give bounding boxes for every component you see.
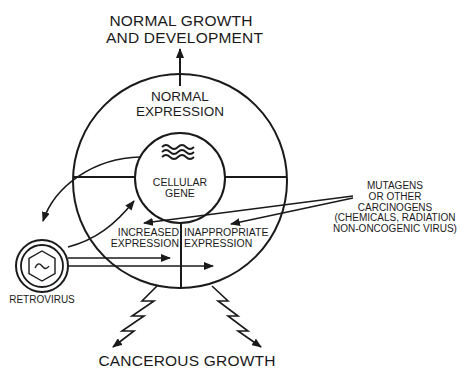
mutagens-label: MUTAGENS OR OTHER CARCINOGENS (CHEMICALS… xyxy=(325,181,465,235)
hexagon-virus-icon xyxy=(16,240,68,292)
mutagens-line5: NON-ONCOGENIC VIRUS) xyxy=(325,224,465,235)
normal-growth-label: NORMAL GROWTH AND DEVELOPMENT xyxy=(106,13,256,46)
normal-growth-line1: NORMAL GROWTH xyxy=(106,13,256,30)
increased-expression-line2: EXPRESSION xyxy=(100,238,179,249)
normal-expression-line2: EXPRESSION xyxy=(120,105,240,120)
normal-expression-line1: NORMAL xyxy=(120,90,240,105)
arrow-cancer-right xyxy=(212,286,261,347)
cellular-gene-line2: GENE xyxy=(140,188,220,199)
increased-expression-label: INCREASED EXPRESSION xyxy=(100,227,179,250)
inappropriate-expression-line2: EXPRESSION xyxy=(184,238,284,249)
normal-expression-label: NORMAL EXPRESSION xyxy=(120,90,240,119)
mutagens-line2: OR OTHER xyxy=(325,192,465,203)
retrovirus-label: RETROVIRUS xyxy=(4,295,80,306)
cancerous-growth-label: CANCEROUS GROWTH xyxy=(92,353,282,370)
arrow-mutagens-increased xyxy=(144,196,353,223)
inappropriate-expression-label: INAPPROPRIATE EXPRESSION xyxy=(184,227,284,250)
normal-growth-line2: AND DEVELOPMENT xyxy=(106,30,256,47)
arrow-cancer-left xyxy=(113,286,157,347)
wavy-lines-icon xyxy=(162,145,194,159)
cellular-gene-label: CELLULAR GENE xyxy=(140,177,220,200)
